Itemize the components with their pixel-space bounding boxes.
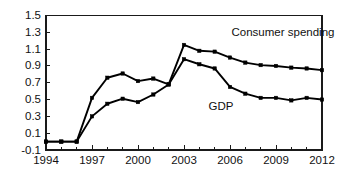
data-point-marker	[305, 67, 308, 70]
data-point-marker	[228, 85, 231, 88]
data-point-marker	[228, 56, 231, 59]
data-point-marker	[213, 67, 216, 70]
data-point-marker	[152, 93, 155, 96]
y-tick-label: 1.3	[25, 26, 41, 38]
data-point-marker	[290, 99, 293, 102]
x-axis-ticks	[46, 145, 322, 150]
chart-figure: -0.10.10.30.50.70.91.11.31.5 19941997200…	[0, 0, 349, 176]
series-markers	[44, 43, 323, 143]
series-label-2: GDP	[209, 100, 234, 112]
data-point-marker	[106, 102, 109, 105]
data-point-marker	[182, 43, 185, 46]
x-tick-label: 2003	[171, 154, 197, 166]
series-line-2	[46, 59, 322, 141]
data-point-marker	[198, 49, 201, 52]
data-point-marker	[290, 66, 293, 69]
y-tick-label: 1.5	[25, 9, 41, 21]
data-point-marker	[274, 64, 277, 67]
x-tick-label: 2012	[309, 154, 335, 166]
y-tick-label: 0.3	[25, 110, 41, 122]
y-tick-label: 0.9	[25, 59, 41, 71]
data-point-marker	[44, 140, 47, 143]
data-point-marker	[90, 96, 93, 99]
data-point-marker	[274, 96, 277, 99]
data-point-marker	[244, 92, 247, 95]
y-tick-label: 0.1	[25, 127, 41, 139]
x-tick-label: 1997	[79, 154, 105, 166]
data-point-marker	[182, 58, 185, 61]
x-tick-label: 2009	[263, 154, 289, 166]
data-point-marker	[152, 77, 155, 80]
data-point-marker	[259, 96, 262, 99]
y-axis-tick-labels: -0.10.10.30.50.70.91.11.31.5	[21, 9, 41, 156]
y-tick-label: 1.1	[25, 43, 41, 55]
x-axis-tick-labels: 1994199720002003200620092012	[33, 154, 335, 166]
y-axis-ticks	[46, 16, 50, 151]
series-label-1: Consumer spending	[232, 26, 335, 38]
data-point-marker	[198, 63, 201, 66]
y-tick-label: 0.5	[25, 93, 41, 105]
x-tick-label: 1994	[33, 154, 59, 166]
data-point-marker	[106, 76, 109, 79]
data-point-marker	[75, 140, 78, 143]
line-chart: -0.10.10.30.50.70.91.11.31.5 19941997200…	[0, 0, 349, 176]
x-tick-label: 2006	[217, 154, 243, 166]
data-point-marker	[90, 115, 93, 118]
data-point-marker	[320, 68, 323, 71]
data-point-marker	[167, 83, 170, 86]
data-point-marker	[213, 50, 216, 53]
data-point-marker	[244, 61, 247, 64]
y-tick-label: 0.7	[25, 76, 41, 88]
data-point-marker	[136, 79, 139, 82]
data-point-marker	[259, 63, 262, 66]
data-point-marker	[136, 100, 139, 103]
data-point-marker	[305, 96, 308, 99]
data-point-marker	[121, 72, 124, 75]
data-point-marker	[121, 97, 124, 100]
data-point-marker	[320, 98, 323, 101]
x-tick-label: 2000	[125, 154, 151, 166]
data-point-marker	[60, 140, 63, 143]
